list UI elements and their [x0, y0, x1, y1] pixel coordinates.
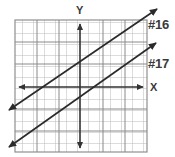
line-16-label: #16	[148, 18, 169, 31]
coordinate-grid-figure: Y X #16 #17	[0, 0, 175, 157]
x-axis-label: X	[150, 82, 157, 93]
line-17-label: #17	[148, 57, 169, 70]
grid-background	[15, 20, 147, 152]
y-axis-label: Y	[76, 5, 83, 16]
